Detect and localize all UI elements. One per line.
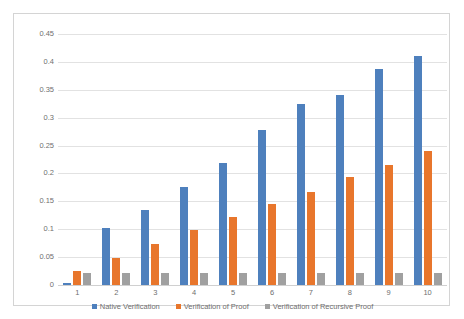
bar[interactable]	[229, 217, 237, 285]
bar[interactable]	[395, 273, 403, 285]
chart-legend: Native VerificationVerification of Proof…	[14, 303, 451, 311]
x-axis-tick-label: 4	[175, 287, 214, 299]
y-axis-tick-label: 0.45	[14, 30, 54, 38]
bar[interactable]	[297, 104, 305, 285]
y-axis-tick-label: 0.1	[14, 225, 54, 233]
legend-item[interactable]: Native Verification	[92, 303, 160, 311]
legend-swatch-icon	[265, 304, 270, 309]
legend-item[interactable]: Verification of Recursive Proof	[265, 303, 373, 311]
x-axis-line	[58, 285, 447, 286]
x-axis-tick-labels: 12345678910	[58, 287, 447, 299]
bar[interactable]	[414, 56, 422, 285]
bar-group	[97, 34, 136, 285]
bar[interactable]	[83, 273, 91, 285]
bar-group	[330, 34, 369, 285]
bar[interactable]	[278, 273, 286, 285]
bar[interactable]	[190, 230, 198, 285]
bar[interactable]	[141, 210, 149, 285]
bar-group	[58, 34, 97, 285]
bar[interactable]	[434, 273, 442, 285]
bar[interactable]	[336, 95, 344, 285]
bar[interactable]	[307, 192, 315, 285]
bar[interactable]	[258, 130, 266, 285]
bar[interactable]	[385, 165, 393, 285]
y-axis-tick-labels: 00.050.10.150.20.250.30.350.40.45	[14, 34, 54, 285]
bar[interactable]	[317, 273, 325, 285]
y-axis-tick-label: 0.05	[14, 253, 54, 261]
y-axis-tick-label: 0.3	[14, 114, 54, 122]
bar[interactable]	[122, 273, 130, 285]
legend-swatch-icon	[176, 304, 181, 309]
legend-label: Verification of Recursive Proof	[273, 303, 373, 311]
x-axis-tick-label: 2	[97, 287, 136, 299]
x-axis-tick-label: 10	[408, 287, 447, 299]
bar-group	[408, 34, 447, 285]
y-axis-tick-label: 0.2	[14, 170, 54, 178]
x-axis-tick-label: 1	[58, 287, 97, 299]
bar[interactable]	[356, 273, 364, 285]
bar[interactable]	[112, 258, 120, 285]
bar-group	[136, 34, 175, 285]
legend-swatch-icon	[92, 304, 97, 309]
y-axis-tick-label: 0.4	[14, 58, 54, 66]
chart-plot-frame: 00.050.10.150.20.250.30.350.40.45 123456…	[13, 13, 450, 306]
bar-group	[291, 34, 330, 285]
y-axis-tick-label: 0.25	[14, 142, 54, 150]
y-axis-tick-label: 0	[14, 281, 54, 289]
chart-container: 00.050.10.150.20.250.30.350.40.45 123456…	[0, 0, 464, 319]
y-axis-tick-label: 0.15	[14, 198, 54, 206]
legend-label: Native Verification	[100, 303, 160, 311]
bar-group	[369, 34, 408, 285]
bar-group	[253, 34, 292, 285]
bar[interactable]	[102, 228, 110, 285]
bar[interactable]	[161, 273, 169, 285]
x-axis-tick-label: 6	[253, 287, 292, 299]
x-axis-tick-label: 5	[214, 287, 253, 299]
legend-label: Verification of Proof	[184, 303, 249, 311]
x-axis-tick-label: 3	[136, 287, 175, 299]
bar[interactable]	[151, 244, 159, 285]
bar[interactable]	[424, 151, 432, 285]
bar[interactable]	[375, 69, 383, 285]
bar[interactable]	[239, 273, 247, 285]
bar-groups	[58, 34, 447, 285]
legend-item[interactable]: Verification of Proof	[176, 303, 249, 311]
bar[interactable]	[268, 204, 276, 285]
x-axis-tick-label: 7	[291, 287, 330, 299]
bar-group	[214, 34, 253, 285]
plot-area	[58, 34, 447, 285]
bar-group	[175, 34, 214, 285]
bar[interactable]	[200, 273, 208, 285]
x-axis-tick-label: 9	[369, 287, 408, 299]
y-axis-tick-label: 0.35	[14, 86, 54, 94]
bar[interactable]	[73, 271, 81, 285]
bar[interactable]	[180, 187, 188, 285]
bar[interactable]	[219, 163, 227, 285]
bar[interactable]	[346, 177, 354, 285]
x-axis-tick-label: 8	[330, 287, 369, 299]
